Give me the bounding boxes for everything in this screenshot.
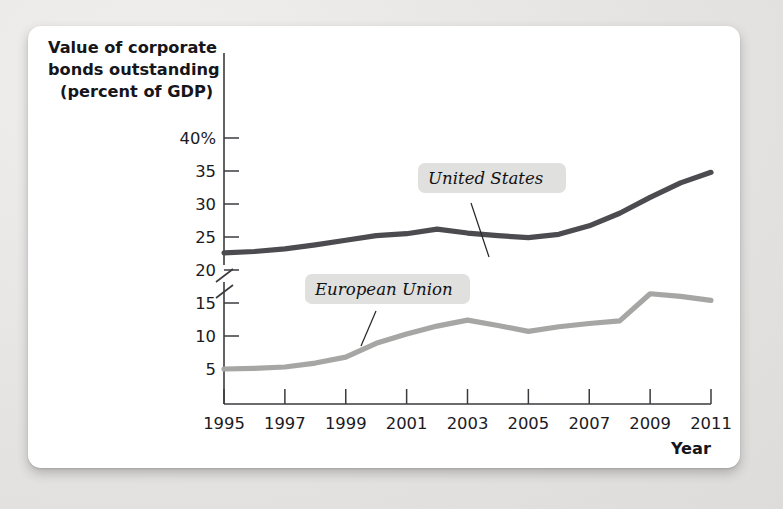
axes — [216, 53, 711, 404]
y-tick-label: 10 — [195, 327, 216, 346]
x-tick-label: 2001 — [386, 414, 428, 433]
x-tick-label: 2005 — [508, 414, 550, 433]
y-tick-label: 30 — [195, 195, 216, 214]
y-axis-title-line-3: (percent of GDP) — [60, 82, 213, 101]
y-tick-label: 25 — [195, 228, 216, 247]
y-tick-label: 20 — [195, 261, 216, 280]
x-tick-label: 1995 — [203, 414, 245, 433]
leader-line-united-states — [471, 203, 489, 257]
figure-card: Value of corporate bonds outstanding (pe… — [28, 26, 740, 468]
x-tick-label: 2007 — [568, 414, 610, 433]
y-axis-title-line-2: bonds outstanding — [48, 60, 220, 79]
x-tick-label: 2003 — [447, 414, 489, 433]
series-group — [224, 172, 711, 369]
x-tick-label: 1997 — [264, 414, 306, 433]
x-axis-title: Year — [670, 439, 711, 458]
x-tick-label: 1999 — [325, 414, 367, 433]
x-tick-label: 2009 — [629, 414, 671, 433]
x-tick-label: 2011 — [690, 414, 732, 433]
annotation-united-states: United States — [418, 163, 566, 257]
series-label-united-states: United States — [428, 169, 543, 188]
series-label-european-union: European Union — [314, 280, 453, 299]
y-tick-label: 5 — [206, 360, 216, 379]
leader-line-european-union — [361, 311, 376, 346]
axis-break-slash-1 — [216, 269, 233, 282]
annotation-european-union: European Union — [305, 274, 470, 346]
line-chart: Value of corporate bonds outstanding (pe… — [28, 26, 740, 468]
y-tick-label: 35 — [195, 162, 216, 181]
y-tick-label: 40% — [180, 129, 216, 148]
y-tick-label: 15 — [195, 294, 216, 313]
x-tick-group: 199519971999200120032005200720092011 — [203, 389, 732, 433]
y-axis-title-line-1: Value of corporate — [48, 38, 217, 57]
series-line-european-union — [224, 294, 711, 369]
